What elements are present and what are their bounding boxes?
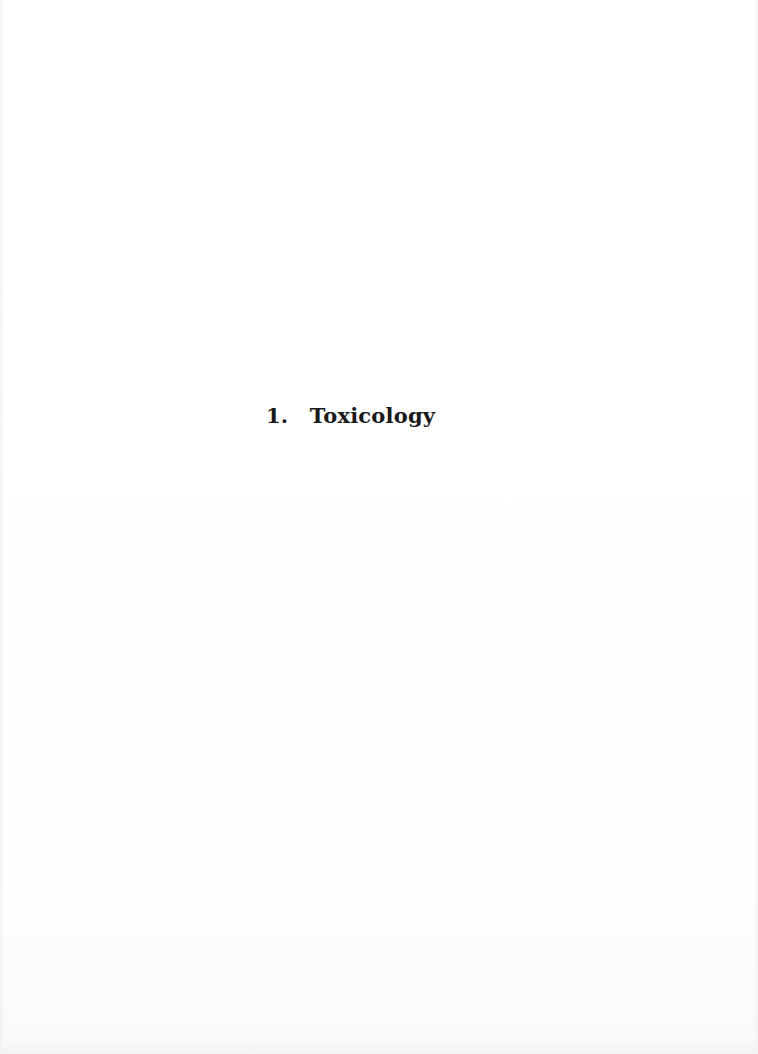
section-title: Toxicology (310, 401, 435, 431)
section-heading: 1. Toxicology (266, 401, 435, 431)
page-edge-bottom (0, 1042, 758, 1054)
section-number: 1. (266, 401, 288, 431)
page-edge-left (0, 0, 4, 1054)
document-page: 1. Toxicology (0, 0, 758, 1054)
page-edge-right (754, 0, 758, 1054)
